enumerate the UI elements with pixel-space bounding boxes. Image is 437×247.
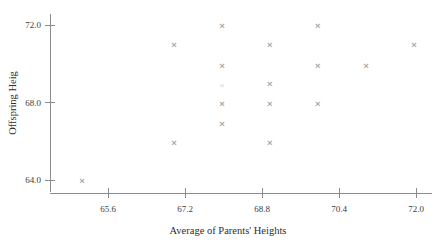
scatter-marker-x-icon: ×	[267, 137, 273, 148]
x-tick-label: 72.0	[408, 204, 424, 214]
scatter-marker-x-icon: ×	[315, 60, 321, 71]
scatter-marker-x-icon: ×	[171, 137, 177, 148]
y-tick-group: 64.068.072.0	[25, 20, 55, 185]
x-tick-label: 67.2	[177, 204, 193, 214]
scatter-marker-x-icon: ×	[315, 98, 321, 109]
data-point-group: ×××××××××××××××××	[79, 20, 417, 185]
scatter-marker-x-icon: ×	[79, 175, 85, 186]
x-axis-title: Average of Parents' Heights	[170, 225, 287, 236]
scatter-plot-figure: 64.068.072.0 65.667.268.870.472.0 ××××××…	[0, 0, 437, 247]
scatter-marker-x-icon: ×	[267, 39, 273, 50]
y-tick-label: 68.0	[25, 98, 41, 108]
scatter-marker-x-icon: ×	[267, 98, 273, 109]
x-axis: 65.667.268.870.472.0	[50, 188, 432, 214]
scatter-marker-x-icon: ×	[219, 60, 225, 71]
x-tick-label: 70.4	[331, 204, 347, 214]
scatter-marker-x-icon: ×	[220, 81, 225, 90]
y-tick-label: 72.0	[25, 20, 41, 30]
scatter-marker-x-icon: ×	[219, 20, 225, 31]
scatter-marker-x-icon: ×	[315, 20, 321, 31]
scatter-marker-x-icon: ×	[219, 118, 225, 129]
x-tick-group: 65.667.268.870.472.0	[100, 188, 424, 214]
y-axis-title: Offspring Heig	[7, 70, 18, 134]
scatter-marker-x-icon: ×	[219, 98, 225, 109]
y-tick-label: 64.0	[25, 175, 41, 185]
scatter-marker-x-icon: ×	[267, 78, 273, 89]
scatter-marker-x-icon: ×	[411, 39, 417, 50]
y-axis: 64.068.072.0	[25, 14, 55, 192]
x-tick-label: 68.8	[254, 204, 270, 214]
x-tick-label: 65.6	[100, 204, 116, 214]
plot-canvas: 64.068.072.0 65.667.268.870.472.0 ××××××…	[0, 0, 437, 247]
scatter-marker-x-icon: ×	[363, 60, 369, 71]
scatter-marker-x-icon: ×	[171, 39, 177, 50]
